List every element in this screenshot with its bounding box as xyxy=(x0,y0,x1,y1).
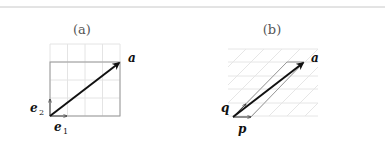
label-a: a xyxy=(128,51,136,65)
figure: (a) a e 2 e 1 (b) xyxy=(0,0,385,156)
skewed-grid xyxy=(228,49,318,116)
label-e1: e xyxy=(54,120,62,134)
panel-b: (b) a q p xyxy=(221,22,319,136)
panel-a: (a) a e 2 e 1 xyxy=(30,22,136,136)
label-q: q xyxy=(221,101,229,115)
label-e1-sub: 1 xyxy=(63,127,68,136)
label-e2-sub: 2 xyxy=(39,108,44,117)
caption-b: (b) xyxy=(263,22,281,37)
label-a-b: a xyxy=(311,51,319,65)
label-e2: e xyxy=(30,101,38,115)
caption-a: (a) xyxy=(73,22,91,37)
vector-a-arrow-b xyxy=(233,63,303,117)
orthogonal-grid xyxy=(50,44,120,116)
label-p: p xyxy=(238,122,247,136)
